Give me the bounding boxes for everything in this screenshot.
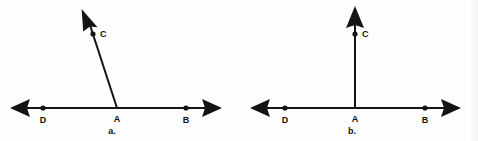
right-arrowhead-icon-b <box>441 99 461 117</box>
caption-b: b. <box>348 126 356 136</box>
diagram-a: D A B C a. <box>10 6 222 136</box>
point-label-a-b: A <box>352 114 359 124</box>
point-label-c-a: C <box>100 29 107 39</box>
point-dot-c-a <box>90 31 95 36</box>
ray-arrowhead-icon-a <box>77 6 98 31</box>
left-arrowhead-icon-b <box>250 99 270 117</box>
ray-arrowhead-icon-b <box>346 6 364 28</box>
point-dot-b-a <box>183 105 188 110</box>
point-dot-c-b <box>352 31 357 36</box>
point-label-b-a: B <box>183 115 190 125</box>
right-arrowhead-icon-a <box>202 99 222 117</box>
point-label-d-b: D <box>282 115 289 125</box>
point-label-d-a: D <box>40 115 47 125</box>
point-dot-b-b <box>422 105 427 110</box>
geometry-figure-canvas: D A B C a. D A B <box>0 0 478 141</box>
caption-a: a. <box>108 126 116 136</box>
point-label-a-a: A <box>114 114 121 124</box>
diagram-b: D A B C b. <box>250 6 461 136</box>
point-dot-d-b <box>282 105 287 110</box>
point-label-b-b: B <box>422 115 429 125</box>
point-dot-d-a <box>40 105 45 110</box>
left-arrowhead-icon-a <box>10 99 30 117</box>
point-label-c-b: C <box>362 29 369 39</box>
geometry-diagram-svg: D A B C a. D A B <box>0 0 478 141</box>
